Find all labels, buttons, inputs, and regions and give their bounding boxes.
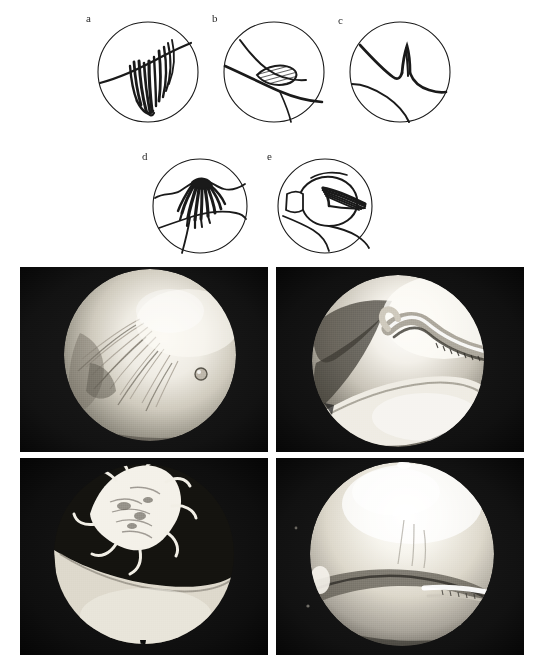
- photo-top-left-image: [20, 267, 268, 452]
- schematic-drawing-c: [349, 21, 451, 123]
- schematic-panel-d: d: [152, 158, 248, 254]
- photo-bottom-right: [276, 458, 524, 655]
- panel-label-c: c: [338, 15, 343, 26]
- panel-label-b: b: [212, 13, 218, 24]
- photo-bottom-right-image: [276, 458, 524, 655]
- photo-bottom-left-image: [20, 458, 268, 655]
- panel-label-d: d: [142, 151, 148, 162]
- photo-top-right: [276, 267, 524, 452]
- photo-top-left: [20, 267, 268, 452]
- schematic-drawing-e: [277, 158, 373, 254]
- schematic-drawing-b: [223, 21, 325, 123]
- figure-root: a b: [0, 0, 547, 664]
- panel-label-e: e: [267, 151, 272, 162]
- schematic-diagram-band: a b: [0, 0, 547, 262]
- scope-circle-outline: [153, 159, 247, 253]
- schematic-panel-c: c: [349, 21, 451, 123]
- photo-bottom-left: [20, 458, 268, 655]
- schematic-drawing-d: [152, 158, 248, 254]
- arthroscopic-photo-grid: [20, 267, 524, 655]
- schematic-panel-e: e: [277, 158, 373, 254]
- schematic-panel-a: a: [97, 21, 199, 123]
- schematic-drawing-a: [97, 21, 199, 123]
- schematic-panel-b: b: [223, 21, 325, 123]
- photo-top-right-image: [276, 267, 524, 452]
- panel-label-a: a: [86, 13, 91, 24]
